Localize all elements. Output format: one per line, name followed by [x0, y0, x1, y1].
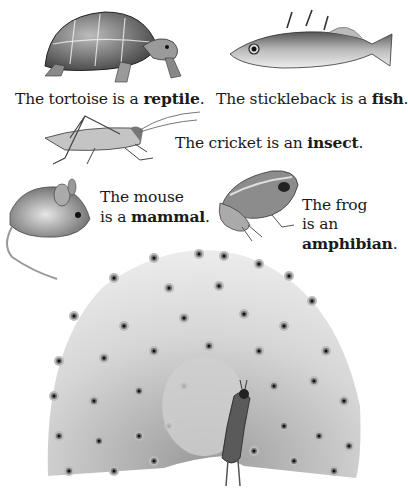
term-insect: insect: [307, 133, 358, 152]
caption-stickleback: The stickleback is a fish.: [216, 90, 408, 108]
term-reptile: reptile: [143, 89, 199, 108]
term-fish: fish: [372, 89, 404, 108]
caption-cricket: The cricket is an insect.: [175, 134, 363, 152]
caption-tortoise: The tortoise is a reptile.: [15, 90, 204, 108]
term-mammal: mammal: [131, 207, 205, 226]
caption-mouse: The mouse is a mammal.: [100, 188, 210, 227]
cricket-illustration: [25, 108, 200, 170]
peacock-illustration: [44, 246, 364, 488]
frog-illustration: [212, 165, 300, 243]
tortoise-illustration: [35, 6, 185, 84]
fish-illustration: [222, 8, 394, 70]
